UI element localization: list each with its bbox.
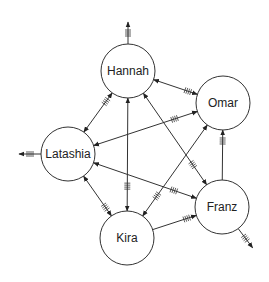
node-label: Hannah xyxy=(107,64,149,78)
node-franz[interactable]: Franz xyxy=(195,180,249,234)
node-label: Latashia xyxy=(45,147,91,161)
nodes-layer: Hannah Omar Latashia Franz Kira xyxy=(41,44,250,265)
node-omar[interactable]: Omar xyxy=(196,76,250,130)
graph-canvas: Hannah Omar Latashia Franz Kira xyxy=(0,0,269,282)
node-label: Kira xyxy=(116,231,138,245)
node-label: Franz xyxy=(207,200,238,214)
edge-latashia-franz xyxy=(94,163,197,198)
node-hannah[interactable]: Hannah xyxy=(101,44,155,98)
node-kira[interactable]: Kira xyxy=(100,211,154,265)
edge-hannah-kira xyxy=(127,98,128,211)
edge-latashia-kira xyxy=(84,176,112,216)
edge-latashia-omar xyxy=(94,111,198,145)
node-label: Omar xyxy=(208,96,238,110)
external-edge-franz xyxy=(238,229,252,248)
node-latashia[interactable]: Latashia xyxy=(41,127,95,181)
graph-diagram: Hannah Omar Latashia Franz Kira xyxy=(0,0,269,282)
